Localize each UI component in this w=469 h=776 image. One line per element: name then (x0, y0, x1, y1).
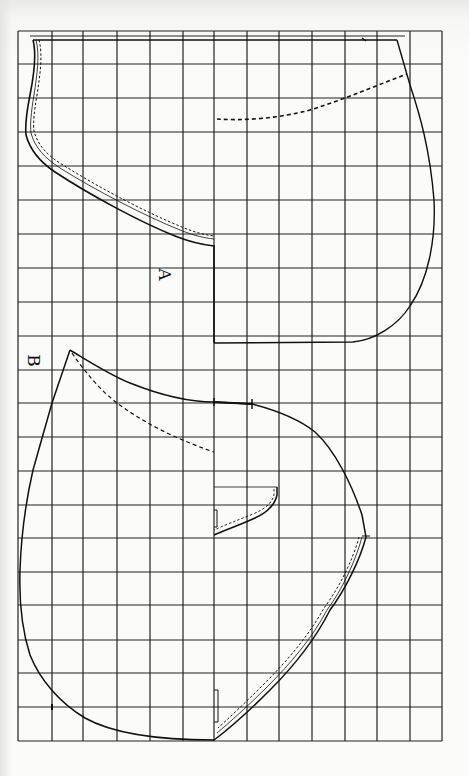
piece-b-seam-line (217, 537, 362, 733)
piece-b-ease-mark (214, 402, 252, 404)
pocket-stitch-line (214, 489, 274, 530)
pocket-outline (214, 487, 277, 535)
piece-a (26, 36, 435, 343)
piece-b-grain-mark (214, 690, 218, 722)
piece-a-stitch-line (34, 40, 214, 236)
piece-a-outline-left (26, 40, 214, 343)
piece-b (20, 350, 370, 740)
pocket-piece (214, 487, 277, 535)
piece-b-outline-right (70, 350, 366, 740)
piece-label-a: А (156, 268, 173, 281)
piece-label-b: В (25, 354, 42, 367)
piece-b-stitch-line (218, 537, 359, 728)
pattern-drawing (0, 0, 469, 776)
pattern-sheet: А В (0, 0, 469, 776)
piece-a-seam-line (31, 40, 214, 239)
grid (18, 31, 442, 741)
